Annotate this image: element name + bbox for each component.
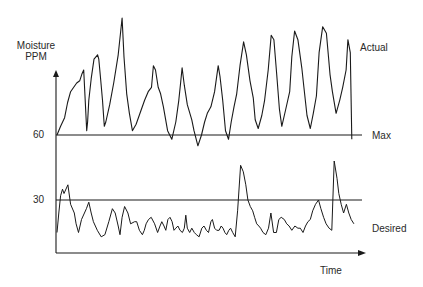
desired-series-label: Desired [372, 223, 406, 234]
desired-series-line [57, 161, 354, 237]
max-line-label: Max [372, 130, 391, 141]
y-axis-label: Moisture PPM [12, 40, 60, 62]
actual-series-line [57, 18, 352, 146]
y-axis-arrow-icon [53, 70, 59, 77]
y-tick-30: 30 [33, 194, 44, 205]
x-axis-label: Time [320, 265, 342, 276]
actual-series-label: Actual [360, 42, 388, 53]
y-axis-label-line1: Moisture [12, 40, 60, 51]
y-axis-label-line2: PPM [12, 51, 60, 62]
x-axis-arrow-icon [358, 250, 366, 256]
y-tick-60: 60 [33, 129, 44, 140]
